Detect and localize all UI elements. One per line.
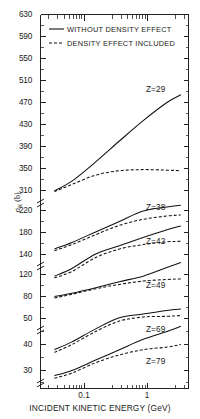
curve-z42-solid [54, 226, 180, 276]
ytick-label-470: 470 [2, 98, 32, 107]
ytick-label-550: 550 [2, 54, 32, 63]
series-label-z42: Z=42 [146, 237, 165, 246]
y-axis-title-unit: (b) [13, 192, 22, 203]
ytick-label-510: 510 [2, 76, 32, 85]
ytick-label-350: 350 [2, 164, 32, 173]
curve-z29-solid [54, 95, 180, 191]
y-axis-title-symbol: σ [13, 208, 22, 212]
ytick-label-140: 140 [2, 250, 32, 259]
ytick-label-40: 40 [2, 340, 32, 349]
series-label-z69: Z=69 [146, 325, 165, 334]
xtick-label-0.1: 0.1 [64, 391, 104, 400]
axis-frame [41, 15, 189, 389]
series-label-z38: Z=38 [146, 203, 165, 212]
ytick-label-120: 120 [2, 270, 32, 279]
xtick-label-1: 1 [127, 391, 167, 400]
legend-entry-without-density-effect: WITHOUT DENSITY EFFECT [67, 25, 172, 34]
series-label-z49: Z=49 [146, 281, 165, 290]
chart-figure: 630 590 550 510 470 430 390 350 310 220 … [0, 0, 200, 419]
ytick-label-430: 430 [2, 120, 32, 129]
y-axis-title-subscript: K [17, 203, 23, 207]
y-major-ticks [41, 15, 189, 371]
series-label-z29: Z=29 [146, 85, 165, 94]
ytick-label-50: 50 [2, 314, 32, 323]
ytick-label-590: 590 [2, 32, 32, 41]
x-axis-title: INCIDENT KINETIC ENERGY (GeV) [0, 403, 200, 413]
legend-entry-density-effect-included: DENSITY EFFECT INCLUDED [67, 39, 175, 48]
y-minor-ticks [41, 26, 189, 383]
ytick-label-630: 630 [2, 10, 32, 19]
y-axis-title: σK (b) [0, 182, 38, 222]
ytick-label-80: 80 [2, 292, 32, 301]
legend-swatches [49, 29, 64, 43]
ytick-label-390: 390 [2, 142, 32, 151]
ytick-label-30: 30 [2, 366, 32, 375]
series-label-z79: Z=79 [146, 357, 165, 366]
ytick-label-180: 180 [2, 228, 32, 237]
